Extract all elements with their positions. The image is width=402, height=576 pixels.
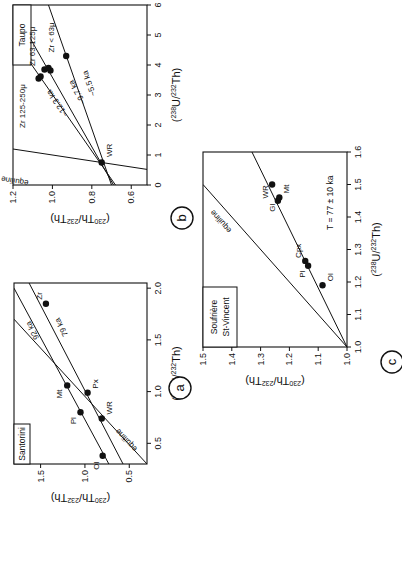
svg-text:a: a — [172, 384, 187, 392]
data-point — [276, 194, 282, 200]
figure-canvas: 0.51.01.52.00.51.01.5(238U/232Th)(230Th/… — [0, 0, 402, 576]
x-tick-label: 1.2 — [353, 276, 363, 289]
line-79-ka — [29, 283, 123, 464]
location-title: Santorini — [17, 427, 27, 461]
x-tick-label: 2.0 — [153, 282, 163, 295]
x-tick-label: 3 — [153, 92, 163, 97]
annotation-label: ~12.3 ka — [44, 88, 69, 119]
data-point — [84, 389, 90, 395]
figure-230th-238u-isochron-panels: 0.51.01.52.00.51.01.5(238U/232Th)(230Th/… — [0, 0, 402, 576]
annotation-label: 92 ka — [24, 319, 41, 341]
data-point — [64, 382, 70, 388]
annotation-label: Mt — [55, 389, 64, 399]
location-title: St-Vincent — [221, 297, 231, 337]
annotation-label: equiline — [0, 174, 29, 187]
annotation-label: ~5.5 ka — [80, 69, 97, 97]
annotation-label: Pl — [298, 270, 307, 277]
x-tick-label: 6 — [153, 2, 163, 7]
data-point — [47, 67, 53, 73]
x-axis-label: (238U/232Th) — [370, 222, 382, 277]
annotation-label: WR — [105, 143, 114, 157]
x-tick-label: 1.5 — [353, 178, 363, 191]
panel-c-plot: 1.01.11.21.31.41.51.61.01.11.21.31.41.5(… — [198, 146, 382, 387]
x-tick-label: 5 — [153, 32, 163, 37]
x-tick-label: 0 — [153, 182, 163, 187]
data-point — [98, 159, 104, 165]
x-tick-label: 1.3 — [353, 243, 363, 256]
panel-label-a: a — [169, 377, 191, 399]
x-tick-label: 1.5 — [153, 334, 163, 347]
x-axis-label: (238U/232Th) — [170, 68, 182, 123]
data-point — [43, 300, 49, 306]
panel-label-b: b — [171, 207, 193, 229]
annotation-label: Zr < 63μ — [47, 22, 56, 53]
y-tick-label: 1.0 — [80, 470, 90, 483]
annotation-label: Ol — [326, 273, 335, 281]
data-point — [319, 282, 325, 288]
y-axis-label: (230Th/232Th) — [245, 375, 304, 387]
y-tick-label: 1.4 — [227, 353, 237, 366]
annotation-label: WR — [261, 185, 270, 199]
y-tick-label: 1.2 — [8, 191, 18, 204]
panel-label-c: c — [381, 351, 402, 373]
annotation-label: equiline — [113, 426, 139, 453]
data-point — [99, 453, 105, 459]
annotation-label: Mt — [282, 184, 291, 194]
y-tick-label: 1.5 — [198, 353, 208, 366]
line-equiline — [13, 149, 147, 169]
location-title: Taupo — [17, 23, 27, 46]
y-tick-label: 1.1 — [313, 353, 323, 366]
data-point — [99, 415, 105, 421]
x-tick-label: 1.0 — [153, 385, 163, 398]
svg-text:c: c — [384, 358, 399, 365]
x-tick-label: 0.5 — [153, 437, 163, 450]
annotation-label: WR — [105, 401, 114, 415]
y-tick-label: 1.3 — [256, 353, 266, 366]
annotation-label: Pl — [69, 417, 78, 424]
annotation-label: Px — [91, 379, 100, 388]
annotation-label: Zr — [35, 292, 44, 300]
y-tick-label: 0.6 — [126, 191, 136, 204]
annotation-label: Ol — [92, 462, 101, 470]
x-tick-label: 1 — [153, 152, 163, 157]
svg-text:b: b — [174, 214, 189, 221]
x-tick-label: 1.0 — [353, 341, 363, 354]
location-title: Soufrière — [209, 299, 219, 334]
x-tick-label: 4 — [153, 62, 163, 67]
annotation-label: Cpx — [294, 244, 303, 258]
annotation-label: Zr 125-250μ — [18, 84, 27, 128]
y-axis-label: (230Th/232Th) — [51, 492, 110, 504]
panel-b-plot: 01234560.60.81.01.2(238U/232Th)(230Th/23… — [0, 2, 182, 225]
annotation-label: equiline — [208, 208, 233, 235]
annotation-label: Zr 63-125μ — [28, 26, 37, 66]
annotation-label: T = 77 ± 10 ka — [325, 175, 335, 230]
data-point — [77, 409, 83, 415]
data-point — [37, 73, 43, 79]
y-tick-label: 1.0 — [342, 353, 352, 366]
y-axis-label: (230Th/232Th) — [50, 213, 109, 225]
data-point — [63, 53, 69, 59]
y-tick-label: 1.5 — [36, 470, 46, 483]
x-tick-label: 1.1 — [353, 308, 363, 321]
y-tick-label: 1.0 — [47, 191, 57, 204]
x-tick-label: 1.4 — [353, 211, 363, 224]
panel-a-plot: 0.51.01.52.00.51.01.5(238U/232Th)(230Th/… — [14, 282, 182, 504]
y-tick-label: 0.5 — [124, 470, 134, 483]
x-tick-label: 1.6 — [353, 146, 363, 159]
annotation-label: Gl — [268, 204, 277, 212]
x-tick-label: 2 — [153, 122, 163, 127]
y-tick-label: 0.8 — [87, 191, 97, 204]
y-tick-label: 1.2 — [284, 353, 294, 366]
